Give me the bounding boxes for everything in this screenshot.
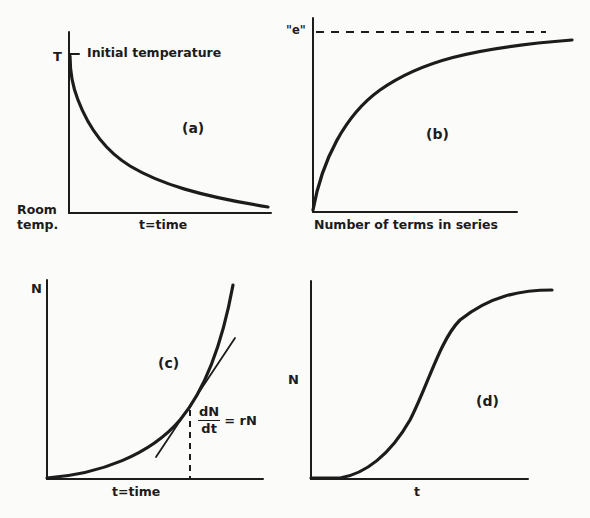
panel-d-logistic-curve	[311, 290, 552, 478]
panel-c-tag: (c)	[158, 356, 179, 370]
figure-canvas	[0, 0, 590, 518]
panel-b-x-label: Number of terms in series	[314, 219, 498, 232]
panel-c-growth-curve	[47, 285, 233, 478]
panel-b-e-label: "e"	[286, 25, 306, 37]
panel-a-y-label: T	[53, 50, 62, 63]
panel-b-tag: (b)	[426, 127, 449, 141]
panel-a-room-label-line1: Room	[17, 204, 57, 217]
panel-c-derivative-annotation: dN dt = rN	[198, 405, 257, 435]
panel-d-x-label: t	[414, 486, 420, 499]
panel-d	[311, 281, 552, 479]
panel-a-decay-curve	[70, 56, 268, 207]
panel-c-fraction-numerator: dN	[198, 405, 220, 421]
panel-c	[47, 280, 263, 479]
panel-d-tag: (d)	[476, 394, 499, 408]
panel-c-equation-rhs: = rN	[224, 413, 257, 428]
panel-b-convergence-curve	[313, 40, 572, 210]
panel-a-tag: (a)	[182, 121, 204, 135]
panel-b	[313, 18, 572, 212]
panel-d-y-label: N	[288, 373, 299, 386]
panel-c-fraction-denominator: dt	[201, 421, 217, 436]
panel-a-initial-temperature-label: Initial temperature	[87, 47, 221, 60]
panel-a-x-label: t=time	[139, 219, 187, 232]
panel-a-room-label-line2: temp.	[17, 219, 58, 232]
panel-c-x-label: t=time	[112, 486, 160, 499]
panel-c-fraction: dN dt	[198, 405, 220, 435]
panel-c-y-label: N	[31, 282, 42, 295]
